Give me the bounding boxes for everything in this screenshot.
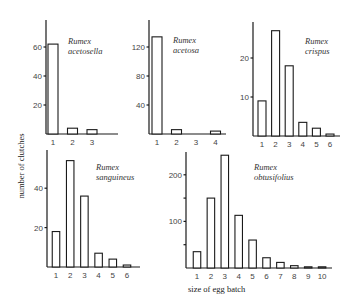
x-tick-label: 7 xyxy=(278,272,283,281)
panel-rumex-crispus: 1020123456Rumexcrispus xyxy=(240,22,340,149)
x-tick-label: 5 xyxy=(111,271,116,280)
y-tick-label: 20 xyxy=(33,101,42,110)
x-tick-label: 3 xyxy=(287,140,292,149)
x-tick-label: 2 xyxy=(273,140,278,149)
species-label: Rumexobtusifolius xyxy=(253,162,294,182)
y-axis-title: number of clutches xyxy=(16,133,26,198)
bar-4 xyxy=(95,253,103,267)
y-tick-label: 100 xyxy=(169,217,183,226)
y-tick-label: 20 xyxy=(34,224,43,233)
x-tick-label: 1 xyxy=(54,271,59,280)
x-tick-label: 5 xyxy=(250,272,255,281)
y-tick-label: 40 xyxy=(34,184,43,193)
x-tick-label: 4 xyxy=(301,140,306,149)
x-tick-label: 4 xyxy=(213,138,218,147)
x-tick-label: 1 xyxy=(260,140,265,149)
x-axis-title: size of egg batch xyxy=(188,284,246,294)
panels: 204060123Rumexacetosella40801201234Rumex… xyxy=(33,20,340,281)
bar-9 xyxy=(304,267,312,268)
x-tick-label: 5 xyxy=(314,140,319,149)
panel-rumex-sanguineus: 2040123456Rumexsanguineus xyxy=(34,150,140,280)
species-label: Rumexacetosella xyxy=(67,36,102,56)
x-tick-label: 8 xyxy=(292,272,297,281)
panel-rumex-obtusifolius: 10020012345678910Rumexobtusifolius xyxy=(169,152,332,281)
bar-2 xyxy=(272,31,280,136)
bar-8 xyxy=(291,266,299,268)
x-tick-label: 6 xyxy=(328,140,333,149)
x-tick-label: 10 xyxy=(318,272,327,281)
x-tick-label: 3 xyxy=(223,272,228,281)
bar-6 xyxy=(123,265,131,267)
bar-1 xyxy=(193,252,201,268)
x-tick-label: 4 xyxy=(96,271,101,280)
bar-1 xyxy=(52,232,60,267)
bar-4 xyxy=(211,131,221,134)
bar-5 xyxy=(249,240,257,268)
species-label: Rumexsanguineus xyxy=(95,162,135,182)
panel-rumex-acetosella: 204060123Rumexacetosella xyxy=(33,20,118,147)
x-tick-label: 3 xyxy=(90,138,95,147)
bar-7 xyxy=(277,262,285,268)
y-tick-label: 40 xyxy=(33,72,42,81)
bar-1 xyxy=(258,101,266,136)
y-tick-label: 60 xyxy=(33,43,42,52)
bar-2 xyxy=(207,198,215,268)
bar-1 xyxy=(48,44,58,134)
x-tick-label: 2 xyxy=(209,272,214,281)
bar-1 xyxy=(152,37,162,134)
x-tick-label: 2 xyxy=(68,271,73,280)
bar-4 xyxy=(235,215,243,268)
egg-batch-histogram-figure: 204060123Rumexacetosella40801201234Rumex… xyxy=(0,0,350,304)
bar-5 xyxy=(109,259,117,267)
x-tick-label: 4 xyxy=(236,272,241,281)
x-tick-label: 1 xyxy=(155,138,160,147)
x-tick-label: 3 xyxy=(194,138,199,147)
species-label: Rumexcrispus xyxy=(304,36,330,56)
y-tick-label: 80 xyxy=(136,72,145,81)
bar-3 xyxy=(221,155,229,268)
y-tick-label: 20 xyxy=(240,54,249,63)
x-tick-label: 6 xyxy=(125,271,130,280)
y-tick-label: 10 xyxy=(240,93,249,102)
bar-3 xyxy=(285,66,293,136)
bar-2 xyxy=(66,161,74,267)
y-tick-label: 200 xyxy=(169,171,183,180)
x-tick-label: 6 xyxy=(264,272,269,281)
x-tick-label: 1 xyxy=(51,138,56,147)
species-label: Rumexacetosa xyxy=(172,35,199,55)
x-tick-label: 2 xyxy=(174,138,179,147)
y-tick-label: 120 xyxy=(132,43,146,52)
panel-rumex-acetosa: 40801201234Rumexacetosa xyxy=(132,20,226,147)
bar-2 xyxy=(172,130,182,134)
bar-6 xyxy=(326,134,334,136)
bar-3 xyxy=(87,130,97,134)
y-tick-label: 40 xyxy=(136,101,145,110)
x-tick-label: 2 xyxy=(70,138,75,147)
x-tick-label: 1 xyxy=(195,272,200,281)
bar-4 xyxy=(299,122,307,136)
bar-2 xyxy=(68,128,78,134)
x-tick-label: 3 xyxy=(82,271,87,280)
bar-6 xyxy=(263,258,271,268)
bar-3 xyxy=(81,196,89,267)
x-tick-label: 9 xyxy=(306,272,311,281)
bar-10 xyxy=(318,267,326,268)
bar-5 xyxy=(312,128,320,136)
